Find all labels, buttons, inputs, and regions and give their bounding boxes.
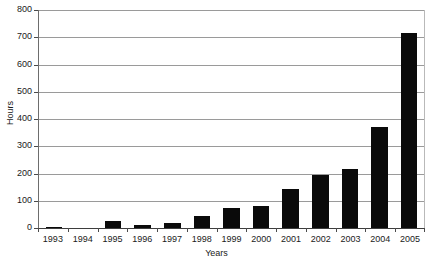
x-axis-tick-labels: 1993199419951996199719981999200020012002…: [38, 234, 425, 245]
y-tick-label-700: 700: [0, 32, 32, 41]
x-tick-label-1995: 1995: [98, 234, 128, 245]
bar-slot: [365, 10, 395, 228]
x-tick-label-2002: 2002: [306, 234, 336, 245]
bar-slot: [217, 10, 247, 228]
x-axis-tick-marks: [38, 228, 425, 232]
x-tick-mark-2000: [246, 228, 276, 232]
y-tick-label-100: 100: [0, 196, 32, 205]
x-tick-mark-2005: [395, 228, 425, 232]
x-tick-mark-1995: [98, 228, 128, 232]
x-tick-mark-1994: [68, 228, 98, 232]
y-tick-label-400: 400: [0, 114, 32, 123]
bar-slot: [98, 10, 128, 228]
y-tick-label-600: 600: [0, 60, 32, 69]
x-tick-label-1993: 1993: [38, 234, 68, 245]
bar-2000: [253, 206, 270, 228]
x-tick-mark-1999: [217, 228, 247, 232]
x-tick-label-1997: 1997: [157, 234, 187, 245]
bar-1995: [105, 221, 122, 228]
x-tick-mark-1997: [157, 228, 187, 232]
bar-2003: [342, 169, 359, 228]
x-tick-mark-1993: [38, 228, 68, 232]
x-tick-label-2001: 2001: [276, 234, 306, 245]
bar-slot: [335, 10, 365, 228]
bar-2001: [282, 189, 299, 229]
bar-slot: [246, 10, 276, 228]
bar-slot: [128, 10, 158, 228]
bar-2005: [401, 33, 418, 228]
x-tick-mark-1996: [127, 228, 157, 232]
bar-slot: [39, 10, 69, 228]
x-tick-mark-2002: [306, 228, 336, 232]
x-tick-label-2004: 2004: [365, 234, 395, 245]
x-tick-mark-2001: [276, 228, 306, 232]
bar-1999: [223, 208, 240, 228]
plot-area: [38, 10, 425, 228]
bar-slot: [276, 10, 306, 228]
bar-2004: [371, 127, 388, 228]
bar-slot: [394, 10, 424, 228]
x-tick-label-1998: 1998: [187, 234, 217, 245]
y-tick-label-0: 0: [0, 223, 32, 232]
y-tick-label-300: 300: [0, 141, 32, 150]
bar-chart: Hours 0100200300400500600700800 19931994…: [0, 0, 433, 265]
x-tick-label-2003: 2003: [336, 234, 366, 245]
x-tick-label-1994: 1994: [68, 234, 98, 245]
bar-slot: [157, 10, 187, 228]
bar-slot: [69, 10, 99, 228]
x-tick-label-1999: 1999: [217, 234, 247, 245]
bar-2002: [312, 175, 329, 228]
x-tick-mark-2004: [365, 228, 395, 232]
y-axis-tick-labels: 0100200300400500600700800: [0, 10, 38, 228]
y-tick-label-200: 200: [0, 169, 32, 178]
bar-1998: [194, 216, 211, 228]
bar-slot: [305, 10, 335, 228]
y-tick-label-800: 800: [0, 5, 32, 14]
x-tick-label-1996: 1996: [127, 234, 157, 245]
x-axis-title: Years: [0, 248, 433, 259]
bar-slot: [187, 10, 217, 228]
y-tick-label-500: 500: [0, 87, 32, 96]
x-tick-label-2005: 2005: [395, 234, 425, 245]
x-tick-mark-2003: [336, 228, 366, 232]
x-tick-label-2000: 2000: [246, 234, 276, 245]
bars-layer: [39, 10, 424, 228]
x-tick-mark-1998: [187, 228, 217, 232]
